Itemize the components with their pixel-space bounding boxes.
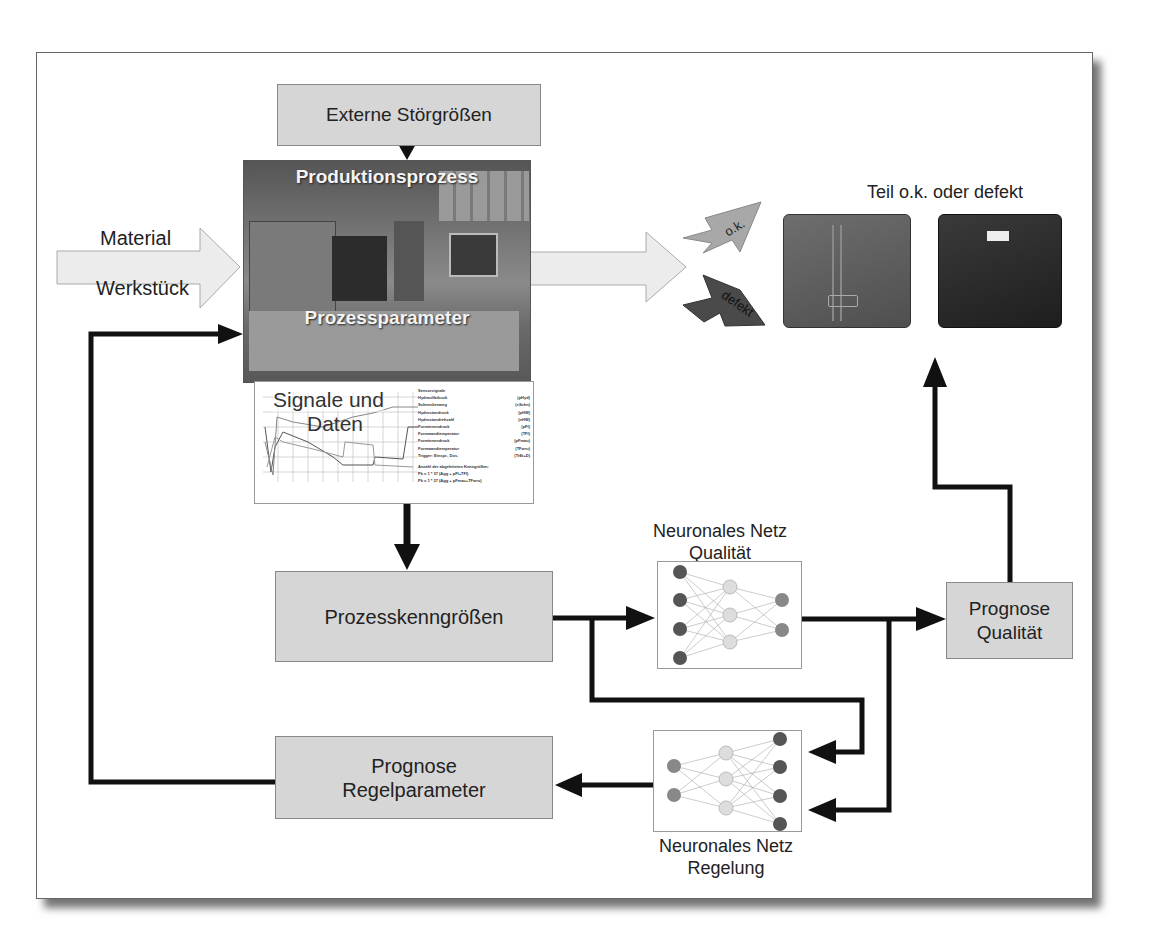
signals-note: Pk = 1 * 37 (Agg + pFI+TFI) xyxy=(418,470,530,477)
legend-row: Formwandtemperatur(TFwru) xyxy=(418,445,530,452)
monitor xyxy=(449,233,498,277)
machine-housing xyxy=(249,221,336,318)
signals-chart-panel: Signale und Daten Sensorsignale Hydrauli… xyxy=(254,381,534,504)
nn-control-graph xyxy=(654,731,801,831)
connectors-layer xyxy=(0,0,1151,937)
prognose-regelparameter-box: Prognose Regelparameter xyxy=(275,736,553,819)
externe-stoergroessen-box: Externe Störgrößen xyxy=(277,84,541,146)
nn-quality-graph xyxy=(658,562,801,668)
nn-control-title: Neuronales Netz Regelung xyxy=(606,835,846,879)
legend-row: Forminnendruck(pFI) xyxy=(418,423,530,430)
signals-title-line1: Signale und xyxy=(273,388,384,412)
legend-row: Hydrostandruck(pHW) xyxy=(418,409,530,416)
signals-note: Anzahl der abgeleiteten Kenngrößen: xyxy=(418,463,530,470)
production-process-photo: Produktionsprozess Prozessparameter xyxy=(243,160,531,383)
legend-row: Forminnendruck(pFmau) xyxy=(418,437,530,444)
prognose-qualitaet-box: Prognose Qualität xyxy=(946,582,1073,659)
werkstueck-label: Werkstück xyxy=(96,276,206,300)
part-ok-image xyxy=(783,214,911,328)
signals-note: Pk = 1 * 37 (Agg + pFmau+TFwru) xyxy=(418,477,530,484)
output-arrow xyxy=(530,232,686,302)
legend-row: Formwandtemperatur(TFI) xyxy=(418,430,530,437)
nn-quality-diagram xyxy=(657,561,802,669)
legend-row: Hydraulikdruck(pHyd) xyxy=(418,394,530,401)
machine-window xyxy=(332,236,387,301)
produktionsprozess-label: Produktionsprozess xyxy=(244,166,530,188)
signals-legend: Sensorsignale Hydraulikdruck(pHyd) Schne… xyxy=(418,387,530,485)
prozesskenngroessen-box: Prozesskenngrößen xyxy=(275,571,553,662)
nn-control-diagram xyxy=(653,730,802,832)
legend-row: Hydrostandrehzahl(nHW) xyxy=(418,416,530,423)
signals-title-line2: Daten xyxy=(307,412,363,436)
nn-quality-title: Neuronales Netz Qualität xyxy=(600,520,840,564)
control-panel xyxy=(394,221,424,301)
part-label-plate xyxy=(828,295,858,307)
part-defect-hole xyxy=(987,231,1009,241)
legend-row: Trigger: Einspr., Dos.(TrEt+D) xyxy=(418,452,530,459)
material-label: Material xyxy=(100,226,210,250)
part-defekt-image xyxy=(938,214,1062,328)
legend-row: Schneckenweg(sSchn) xyxy=(418,401,530,408)
outcome-title: Teil o.k. oder defekt xyxy=(820,180,1070,204)
prozessparameter-label: Prozessparameter xyxy=(244,307,530,329)
legend-row: Sensorsignale xyxy=(418,387,530,394)
